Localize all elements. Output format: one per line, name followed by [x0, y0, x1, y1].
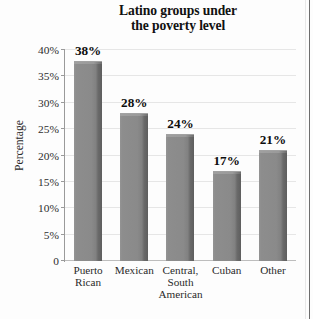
y-axis-tick-label: 20%: [38, 150, 59, 162]
bar-value-label: 38%: [75, 43, 101, 59]
y-axis-tick-label: 35%: [38, 70, 59, 82]
chart-title: Latino groups under the poverty level: [60, 3, 296, 33]
bar-slot: 24%Central,SouthAmerican: [157, 50, 203, 261]
bar-chart-figure: Latino groups under the poverty level Pe…: [0, 0, 313, 319]
x-axis-category-label-line: Other: [242, 264, 304, 276]
x-axis-category-label-line: American: [149, 288, 211, 300]
bar[interactable]: [259, 150, 287, 261]
y-axis-tick-label: 25%: [38, 123, 59, 135]
page-rule-dark: [309, 0, 310, 319]
y-axis-tick-label: 40%: [38, 44, 59, 56]
bar-slot: 38%PuertoRican: [65, 50, 111, 261]
x-axis-category-label: Other: [242, 264, 304, 276]
y-axis-label: Percentage: [13, 96, 26, 196]
y-axis-tick-label: 10%: [38, 202, 59, 214]
y-axis-tick-label: 5%: [44, 229, 59, 241]
y-axis-tick-label: 30%: [38, 97, 59, 109]
x-axis-category-label-line: Rican: [57, 276, 119, 288]
bar[interactable]: [120, 113, 148, 261]
chart-title-line-1: Latino groups under: [60, 3, 296, 18]
y-axis-tick-label: 15%: [38, 176, 59, 188]
bar-slot: 28%Mexican: [111, 50, 157, 261]
bar-value-label: 21%: [260, 132, 286, 148]
bar-slot: 21%Other: [250, 50, 296, 261]
bar-slot: 17%Cuban: [204, 50, 250, 261]
x-axis-category-label-line: South: [149, 276, 211, 288]
bar-value-label: 28%: [121, 95, 147, 111]
page-rule-light: [305, 0, 306, 319]
chart-title-line-2: the poverty level: [60, 18, 296, 33]
plot-area: 05%10%15%20%25%30%35%40% 38%PuertoRican2…: [65, 50, 296, 261]
bar-value-label: 24%: [167, 116, 193, 132]
bar[interactable]: [166, 134, 194, 261]
bar[interactable]: [213, 171, 241, 261]
bar[interactable]: [74, 61, 102, 261]
bar-value-label: 17%: [214, 153, 240, 169]
